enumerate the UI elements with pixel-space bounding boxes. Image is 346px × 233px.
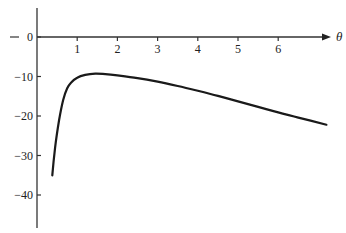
y-tick-label: −20: [14, 109, 33, 123]
line-chart: θ 1234560−10−20−30−40: [0, 0, 346, 233]
ticks: 1234560−10−20−30−40: [10, 30, 281, 202]
y-tick-label: −10: [14, 70, 33, 84]
y-tick-label: −30: [14, 149, 33, 163]
x-tick-label: 1: [74, 42, 80, 56]
x-tick-label: 3: [155, 42, 161, 56]
x-axis-label: θ: [336, 29, 343, 44]
y-tick-label: 0: [27, 30, 33, 44]
x-tick-label: 6: [275, 42, 281, 56]
x-tick-label: 5: [235, 42, 241, 56]
x-axis-arrow-icon: [322, 34, 331, 41]
data-curve: [52, 74, 326, 176]
x-tick-label: 2: [114, 42, 120, 56]
y-tick-label: −40: [14, 188, 33, 202]
x-tick-label: 4: [195, 42, 201, 56]
